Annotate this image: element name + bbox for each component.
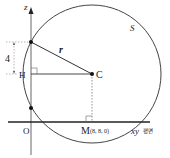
right-angle-h-icon bbox=[31, 68, 37, 74]
z-axis-label: z bbox=[23, 2, 28, 12]
origin-label: O bbox=[23, 126, 30, 136]
point-c-label: C bbox=[96, 69, 103, 80]
z-axis-arrow-icon bbox=[29, 7, 34, 14]
radius-label: r bbox=[59, 44, 63, 55]
bottom-intersection-point bbox=[29, 106, 33, 110]
point-h-label: H bbox=[19, 70, 26, 80]
sphere-label: S bbox=[130, 23, 135, 33]
point-m-coords: (8, 8, 0) bbox=[90, 128, 109, 135]
dim-arrow-up-icon bbox=[13, 42, 15, 45]
distance-label: 4 bbox=[5, 53, 10, 64]
point-m-label: M bbox=[81, 125, 90, 136]
xy-plane-suffix: 평면 bbox=[143, 127, 153, 134]
sphere-diagram: z S r 4 H C O M (8, 8, 0) xy 평면 bbox=[0, 0, 170, 158]
xy-plane-label: xy bbox=[130, 126, 139, 136]
top-intersection-point bbox=[29, 40, 33, 44]
center-point-c bbox=[90, 72, 94, 76]
right-angle-m-icon bbox=[86, 116, 92, 122]
dim-arrow-down-icon bbox=[13, 71, 15, 74]
